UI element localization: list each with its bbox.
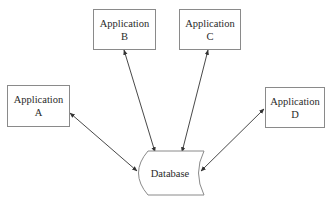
node-app-c-label-line2: C bbox=[206, 31, 213, 42]
node-app-b-box bbox=[94, 10, 156, 50]
node-app-b: Application B bbox=[94, 10, 156, 50]
edge-app-b-database bbox=[124, 50, 155, 152]
node-app-a: Application A bbox=[8, 86, 70, 127]
database-label: Database bbox=[151, 168, 190, 179]
node-app-b-label-line2: B bbox=[121, 31, 128, 42]
node-app-d-box bbox=[266, 88, 325, 128]
edge-app-a-database bbox=[70, 113, 137, 171]
edge-app-d-database bbox=[201, 109, 264, 171]
node-app-d: Application D bbox=[266, 88, 325, 128]
diagram-canvas: Application A Application B Application … bbox=[0, 0, 334, 198]
node-database: Database bbox=[139, 151, 205, 195]
node-app-b-label-line1: Application bbox=[100, 18, 150, 29]
node-app-c: Application C bbox=[180, 10, 241, 50]
node-app-d-label-line1: Application bbox=[270, 96, 320, 107]
node-app-a-label-line1: Application bbox=[14, 94, 64, 105]
edge-app-c-database bbox=[182, 50, 208, 152]
node-app-c-box bbox=[180, 10, 241, 50]
node-app-c-label-line1: Application bbox=[185, 18, 235, 29]
node-app-a-box bbox=[8, 86, 70, 127]
node-app-d-label-line2: D bbox=[291, 109, 299, 120]
node-app-a-label-line2: A bbox=[35, 107, 43, 118]
